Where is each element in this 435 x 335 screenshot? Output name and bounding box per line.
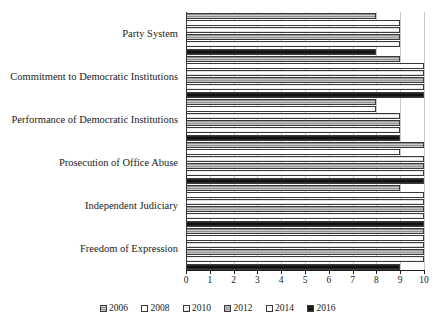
bar (186, 63, 424, 69)
bar (186, 41, 400, 47)
plot-area (186, 12, 424, 270)
bar (186, 242, 424, 248)
bar (186, 127, 400, 133)
x-tick-label-5: 5 (303, 274, 308, 287)
bar (186, 206, 424, 212)
x-tick-label-6: 6 (326, 274, 331, 287)
x-tick-label-1: 1 (207, 274, 212, 287)
bar (186, 49, 376, 55)
bar (186, 163, 424, 169)
bar (186, 156, 424, 162)
x-tick-label-9: 9 (398, 274, 403, 287)
bar (186, 106, 376, 112)
bar (186, 178, 424, 184)
y-axis-label: Commitment to Democratic Institutions (10, 71, 178, 83)
bar (186, 235, 424, 241)
bar (186, 185, 400, 191)
bar (186, 34, 400, 40)
legend-item[interactable]: 2012 (224, 303, 253, 314)
legend-swatch-icon (224, 305, 231, 312)
gridline-10 (424, 12, 425, 270)
chart-legend: 200620082010201220142016 (0, 303, 435, 314)
bar (186, 142, 424, 148)
bar-chart: Party SystemCommitment to Democratic Ins… (0, 0, 435, 335)
legend-item[interactable]: 2016 (307, 303, 336, 314)
legend-label: 2008 (151, 303, 170, 314)
legend-label: 2010 (192, 303, 211, 314)
y-axis-label: Independent Judiciary (85, 200, 178, 212)
bar (186, 92, 424, 98)
bar (186, 170, 424, 176)
bar (186, 27, 400, 33)
bar (186, 13, 376, 19)
legend-item[interactable]: 2006 (100, 303, 129, 314)
bar (186, 77, 424, 83)
bar (186, 192, 424, 198)
y-axis-category-labels: Party SystemCommitment to Democratic Ins… (0, 12, 182, 270)
bar (186, 56, 400, 62)
legend-label: 2014 (275, 303, 294, 314)
bar (186, 249, 424, 255)
legend-label: 2006 (109, 303, 128, 314)
legend-item[interactable]: 2014 (266, 303, 295, 314)
x-tick-label-2: 2 (231, 274, 236, 287)
legend-swatch-icon (307, 305, 314, 312)
x-tick-label-10: 10 (419, 274, 429, 287)
x-axis-tick-labels: 012345678910 (186, 274, 424, 288)
legend-label: 2012 (234, 303, 253, 314)
bar (186, 264, 400, 270)
legend-item[interactable]: 2008 (141, 303, 170, 314)
bar (186, 120, 400, 126)
legend-item[interactable]: 2010 (183, 303, 212, 314)
bar (186, 84, 424, 90)
legend-label: 2016 (317, 303, 336, 314)
y-axis-label: Prosecution of Office Abuse (59, 157, 178, 169)
x-tick-label-4: 4 (279, 274, 284, 287)
bar (186, 113, 400, 119)
bar (186, 213, 424, 219)
legend-swatch-icon (266, 305, 273, 312)
x-tick-label-7: 7 (350, 274, 355, 287)
legend-swatch-icon (183, 305, 190, 312)
legend-swatch-icon (141, 305, 148, 312)
x-tick-label-3: 3 (255, 274, 260, 287)
bar (186, 149, 400, 155)
bar (186, 256, 424, 262)
bar (186, 135, 400, 141)
y-axis-label: Party System (122, 28, 178, 40)
x-tick-label-8: 8 (374, 274, 379, 287)
y-axis-label: Performance of Democratic Institutions (12, 114, 179, 126)
bar (186, 20, 400, 26)
bar (186, 199, 424, 205)
legend-swatch-icon (100, 305, 107, 312)
x-tick-label-0: 0 (184, 274, 189, 287)
bar (186, 228, 424, 234)
bar (186, 99, 376, 105)
y-axis-label: Freedom of Expression (80, 243, 178, 255)
bar (186, 221, 424, 227)
bar (186, 70, 424, 76)
